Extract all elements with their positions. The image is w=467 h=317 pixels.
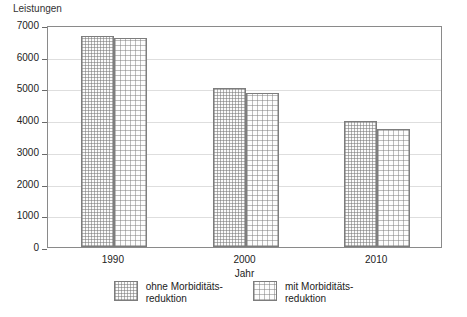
bar-1990-series2 — [114, 38, 147, 247]
y-axis-tick — [42, 59, 47, 60]
y-axis-tick-label: 3000 — [0, 147, 39, 158]
chart-legend: ohne Morbiditäts- reduktionmit Morbiditä… — [0, 281, 467, 305]
x-axis-tick-label: 2010 — [336, 254, 416, 265]
y-axis-tick-label: 0 — [0, 242, 39, 253]
bar-2010-series2 — [377, 129, 410, 247]
bar-2000-series2 — [246, 93, 279, 247]
chart-container: Leistungen ohne Morbiditäts- reduktionmi… — [0, 0, 467, 317]
legend-swatch-icon — [114, 281, 138, 301]
y-axis-tick-label: 4000 — [0, 115, 39, 126]
y-axis-tick — [42, 154, 47, 155]
y-axis-tick — [42, 27, 47, 28]
y-axis-tick — [42, 90, 47, 91]
y-axis-tick-label: 2000 — [0, 179, 39, 190]
legend-swatch-icon — [253, 281, 277, 301]
y-axis-tick-label: 7000 — [0, 20, 39, 31]
bar-2010-series1 — [344, 121, 377, 247]
y-axis-tick — [42, 217, 47, 218]
legend-item-1: ohne Morbiditäts- reduktion — [114, 281, 223, 305]
x-axis-tick-label: 2000 — [205, 254, 285, 265]
y-axis-tick-label: 6000 — [0, 52, 39, 63]
y-axis-tick — [42, 122, 47, 123]
y-axis-tick-label: 5000 — [0, 83, 39, 94]
x-axis-title: Jahr — [205, 268, 285, 279]
plot-area — [47, 26, 442, 248]
bar-2000-series1 — [213, 88, 246, 247]
legend-label: mit Morbiditäts- reduktion — [285, 281, 353, 305]
legend-item-2: mit Morbiditäts- reduktion — [253, 281, 353, 305]
legend-label: ohne Morbiditäts- reduktion — [146, 281, 223, 305]
y-axis-tick — [42, 186, 47, 187]
y-axis-title: Leistungen — [13, 3, 62, 14]
x-axis-tick-label: 1990 — [73, 254, 153, 265]
y-axis-tick — [42, 249, 47, 250]
y-axis-tick-label: 1000 — [0, 210, 39, 221]
bar-1990-series1 — [81, 36, 114, 247]
